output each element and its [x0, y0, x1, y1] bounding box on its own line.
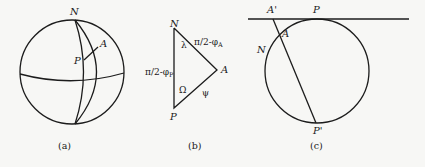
label-angle-lambda: λ [181, 40, 187, 50]
label-vertex-p: P [169, 111, 177, 122]
label-a: A [281, 28, 289, 39]
projection-circle [265, 19, 369, 123]
label-side-np: π/2-φP [145, 67, 174, 79]
label-p: P [312, 4, 320, 15]
sphere-outline [20, 20, 124, 124]
equator-back [20, 68, 124, 74]
arc-pa [84, 47, 98, 60]
meridian-p [75, 20, 84, 124]
caption-a: (a) [58, 140, 71, 151]
label-vertex-n: N [169, 18, 180, 29]
label-a-prime: A' [266, 4, 277, 15]
label-vertex-a: A [220, 64, 228, 75]
label-p-prime: P' [312, 125, 322, 136]
caption-b: (b) [188, 140, 202, 151]
panel-b: N A P λ Ω ψ π/2-φA π/2-φP (b) [145, 18, 228, 151]
label-p: P [73, 55, 81, 66]
label-side-psi: ψ [202, 88, 209, 98]
label-angle-omega: Ω [179, 85, 186, 95]
equator-front [20, 73, 124, 81]
caption-c: (c) [310, 140, 323, 151]
label-n: N [69, 6, 80, 17]
panel-c: P A' A N P' (c) [248, 4, 409, 151]
meridian-a [75, 20, 97, 124]
label-n: N [256, 44, 267, 55]
panel-a: N A P (a) [20, 6, 124, 151]
label-a: A [99, 38, 107, 49]
figure-canvas: N A P (a) N A P λ Ω ψ π/2-φA π/2-φP (b) … [0, 0, 425, 167]
label-side-na: π/2-φA [194, 37, 223, 49]
